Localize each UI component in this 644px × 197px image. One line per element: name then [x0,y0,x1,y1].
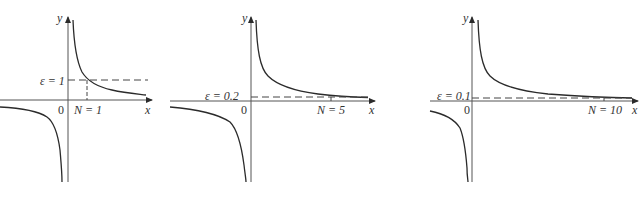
origin-label: 0 [58,103,64,117]
N-label: N = 5 [316,103,345,117]
curve-negative-branch [430,111,468,182]
epsilon-label: ε = 0.1 [437,89,471,103]
x-axis-label: x [368,103,375,117]
N-label: N = 1 [73,103,102,117]
origin-label: 0 [464,103,470,117]
y-axis-label: y [462,11,469,25]
curve-negative-branch [170,107,246,182]
epsilon-label: ε = 0.2 [205,89,239,103]
curve-positive-branch [478,20,632,98]
x-axis-label: x [631,103,638,117]
x-axis-label: x [144,103,151,117]
panel-epsilon-1: y x 0 ε = 1 N = 1 [0,11,152,182]
curve-positive-branch [73,20,146,95]
origin-label: 0 [241,103,247,117]
panel-epsilon-0.2: y x 0 ε = 0.2 N = 5 [170,11,375,182]
epsilon-label: ε = 1 [40,74,65,88]
figure-canvas: y x 0 ε = 1 N = 1 y x 0 ε = 0.2 N = 5 y … [0,0,644,197]
N-label: N = 10 [587,103,622,117]
curve-negative-branch [0,107,62,182]
curve-positive-branch [256,20,368,98]
y-axis-label: y [241,11,248,25]
epsilon-N-figure: y x 0 ε = 1 N = 1 y x 0 ε = 0.2 N = 5 y … [0,0,644,197]
panel-epsilon-0.1: y x 0 ε = 0.1 N = 10 [430,11,638,182]
y-axis-label: y [56,11,63,25]
